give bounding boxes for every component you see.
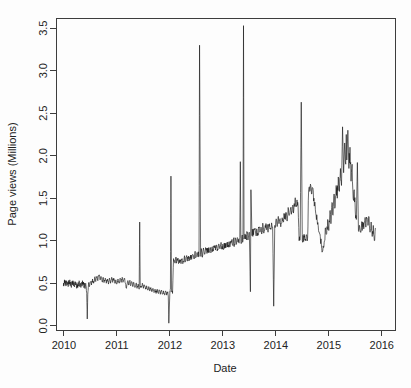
x-axis-tick-labels: 2010201120122013201420152016 [52,339,394,351]
chart-figure: 2010201120122013201420152016 0.00.51.01.… [0,0,411,388]
x-tick-label-2015: 2015 [317,339,341,351]
x-tick-label-2016: 2016 [370,339,394,351]
x-tick-label-2013: 2013 [211,339,235,351]
time-series-plot: 2010201120122013201420152016 0.00.51.01.… [0,0,411,388]
y-tick-label-2.0: 2.0 [37,148,49,163]
x-tick-label-2014: 2014 [264,339,288,351]
series-line-daily-page-views [63,26,375,324]
y-axis-tick-labels: 0.00.51.01.52.02.53.03.5 [37,21,49,334]
y-tick-label-3.0: 3.0 [37,63,49,78]
x-axis-title: Date [213,362,236,374]
x-tick-label-2010: 2010 [52,339,76,351]
plot-frame [56,18,395,330]
y-tick-label-3.5: 3.5 [37,21,49,36]
x-axis-ticks [64,330,382,336]
y-axis-title: Page views (Millions) [6,122,18,225]
data-series [63,26,375,324]
x-tick-label-2012: 2012 [158,339,182,351]
y-tick-label-2.5: 2.5 [37,106,49,121]
x-tick-label-2011: 2011 [105,339,129,351]
y-tick-label-0.0: 0.0 [37,318,49,333]
y-tick-label-1.0: 1.0 [37,233,49,248]
y-tick-label-1.5: 1.5 [37,191,49,206]
y-tick-label-0.5: 0.5 [37,276,49,291]
y-axis-ticks [50,28,56,326]
